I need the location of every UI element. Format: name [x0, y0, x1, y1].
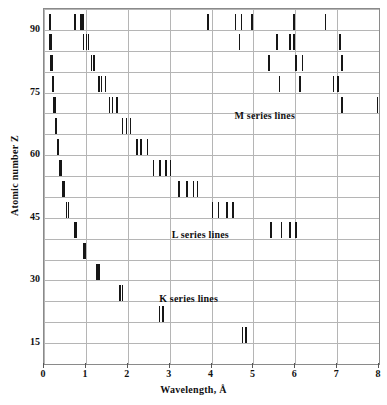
spectral-line — [281, 222, 283, 238]
spectral-line — [270, 222, 272, 238]
x-tick-mark — [252, 363, 253, 368]
spectral-line — [302, 55, 304, 71]
spectral-line — [239, 34, 241, 50]
spectral-line — [93, 55, 95, 71]
x-tick-label: 5 — [242, 368, 262, 380]
spectral-line — [339, 34, 341, 50]
x-tick-mark — [127, 363, 128, 368]
spectral-line — [136, 139, 138, 155]
spectral-line — [293, 14, 295, 30]
spectral-line — [122, 285, 124, 301]
x-tick-mark — [169, 363, 170, 368]
x-tick-label: 0 — [33, 368, 53, 380]
series-annotation: K series lines — [159, 293, 218, 304]
spectral-line — [242, 327, 244, 343]
spectral-line — [130, 118, 132, 134]
x-tick-label: 1 — [75, 368, 95, 380]
spectral-line — [82, 14, 84, 30]
x-tick-label: 6 — [284, 368, 304, 380]
spectral-line — [159, 306, 161, 322]
x-tick-mark — [336, 363, 337, 368]
gridline-horizontal — [44, 364, 379, 365]
spectral-line — [112, 97, 114, 113]
spectral-line — [276, 34, 278, 50]
spectral-line — [75, 222, 77, 238]
spectral-line — [84, 243, 86, 259]
spectral-line — [178, 181, 180, 197]
y-tick-label: 30 — [4, 274, 40, 284]
spectral-line — [51, 55, 53, 71]
gridline-vertical — [128, 9, 129, 364]
spectral-line — [218, 202, 220, 218]
spectral-line — [207, 14, 209, 30]
spectral-line — [101, 76, 103, 92]
spectral-line — [165, 160, 167, 176]
spectral-line — [105, 76, 107, 92]
spectral-line — [119, 285, 121, 301]
plot-area: M series linesL series linesK series lin… — [43, 8, 380, 365]
spectral-line — [232, 202, 234, 218]
spectral-line — [193, 181, 195, 197]
y-tick-label: 75 — [4, 87, 40, 97]
spectral-line — [109, 97, 111, 113]
spectral-line — [50, 34, 52, 50]
spectral-line — [299, 76, 301, 92]
spectral-line — [56, 118, 58, 134]
spectral-line — [153, 160, 155, 176]
spectral-line — [88, 34, 90, 50]
gridline-vertical — [170, 9, 171, 364]
gridline-vertical — [253, 9, 254, 364]
x-axis-title: Wavelength, Å — [0, 384, 387, 395]
spectral-line — [325, 14, 327, 30]
x-tick-mark — [43, 363, 44, 368]
y-tick-label: 15 — [4, 337, 40, 347]
gridline-horizontal — [44, 51, 379, 52]
spectral-line — [293, 34, 295, 50]
gridline-horizontal — [44, 343, 379, 344]
gridline-vertical — [379, 9, 380, 364]
spectral-line — [54, 97, 56, 113]
gridline-vertical — [44, 9, 45, 364]
series-annotation: M series lines — [235, 110, 296, 121]
spectral-line — [126, 118, 128, 134]
gridline-horizontal — [44, 9, 379, 10]
spectral-line — [289, 222, 291, 238]
spectral-line — [241, 14, 243, 30]
spectral-line — [197, 181, 199, 197]
y-axis-title: Atomic number Z — [9, 116, 20, 236]
spectral-line — [74, 14, 76, 30]
spectral-line — [279, 76, 281, 92]
gridline-horizontal — [44, 155, 379, 156]
spectral-line — [295, 222, 297, 238]
x-tick-label: 4 — [201, 368, 221, 380]
gridline-horizontal — [44, 93, 379, 94]
spectral-line — [147, 139, 149, 155]
spectral-line — [245, 327, 247, 343]
spectral-line — [295, 55, 297, 71]
gridline-horizontal — [44, 134, 379, 135]
spectral-line — [162, 306, 164, 322]
spectral-line — [116, 97, 118, 113]
spectral-line — [268, 55, 270, 71]
spectral-line — [122, 118, 124, 134]
x-tick-label: 8 — [368, 368, 387, 380]
gridline-vertical — [86, 9, 87, 364]
spectral-line — [186, 181, 188, 197]
x-tick-mark — [378, 363, 379, 368]
spectral-line — [91, 55, 93, 71]
gridline-horizontal — [44, 218, 379, 219]
spectral-line — [60, 160, 62, 176]
series-annotation: L series lines — [172, 229, 229, 240]
spectral-line — [337, 76, 339, 92]
spectral-line — [58, 139, 60, 155]
gridline-horizontal — [44, 197, 379, 198]
spectral-line — [68, 202, 70, 218]
x-tick-label: 7 — [326, 368, 346, 380]
gridline-horizontal — [44, 113, 379, 114]
spectral-line — [377, 97, 379, 113]
x-tick-mark — [294, 363, 295, 368]
spectral-line — [212, 202, 214, 218]
spectral-line — [341, 97, 343, 113]
gridline-horizontal — [44, 280, 379, 281]
gridline-horizontal — [44, 30, 379, 31]
